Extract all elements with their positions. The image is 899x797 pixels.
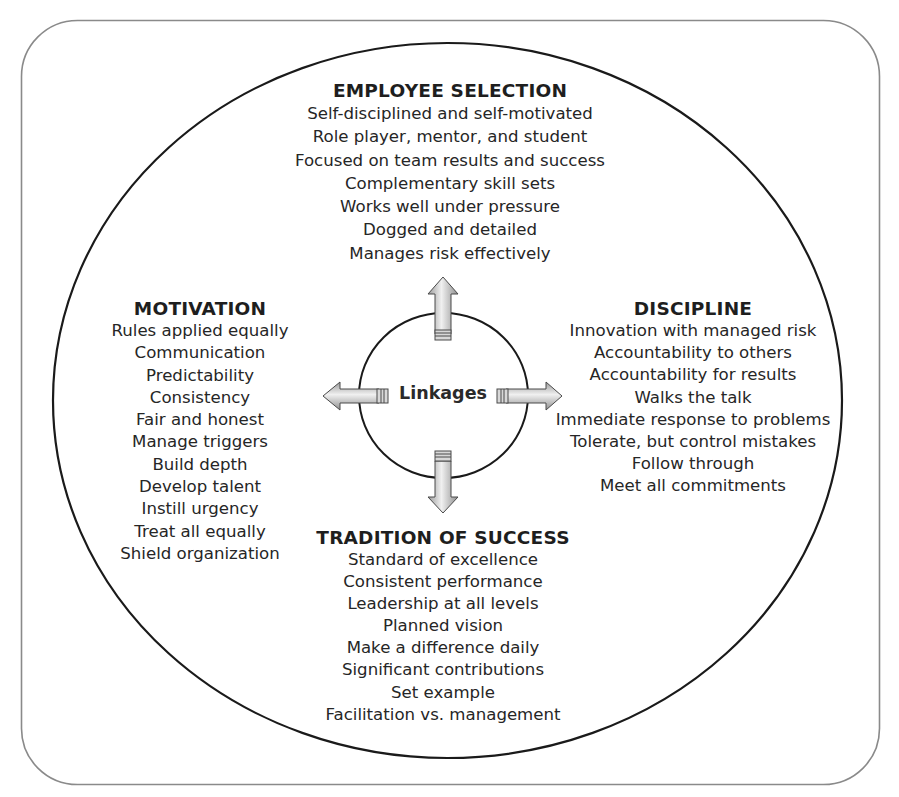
list-item: Build depth [80, 454, 320, 476]
list-item: Set example [283, 682, 603, 704]
list-item: Follow through [553, 453, 833, 475]
list-item: Self-disciplined and self-motivated [250, 102, 650, 125]
list-item: Immediate response to problems [553, 409, 833, 431]
section-title: MOTIVATION [80, 298, 320, 320]
list-item: Develop talent [80, 476, 320, 498]
list-item: Consistent performance [283, 571, 603, 593]
list-item: Accountability for results [553, 364, 833, 386]
section-tradition-of-success: TRADITION OF SUCCESS Standard of excelle… [283, 527, 603, 726]
section-title: DISCIPLINE [553, 298, 833, 320]
list-item: Significant contributions [283, 659, 603, 681]
section-title: TRADITION OF SUCCESS [283, 527, 603, 549]
list-item: Fair and honest [80, 409, 320, 431]
list-item: Communication [80, 342, 320, 364]
list-item: Standard of excellence [283, 549, 603, 571]
list-item: Dogged and detailed [250, 218, 650, 241]
list-item: Leadership at all levels [283, 593, 603, 615]
arrow-left-icon [323, 382, 388, 410]
list-item: Make a difference daily [283, 637, 603, 659]
list-item: Complementary skill sets [250, 172, 650, 195]
list-item: Planned vision [283, 615, 603, 637]
list-item: Walks the talk [553, 387, 833, 409]
list-item: Predictability [80, 365, 320, 387]
list-item: Rules applied equally [80, 320, 320, 342]
list-item: Innovation with managed risk [553, 320, 833, 342]
section-title: EMPLOYEE SELECTION [250, 80, 650, 102]
list-item: Accountability to others [553, 342, 833, 364]
linkages-diagram: Linkages EMPLOYEE SELECTION Self-discipl… [0, 0, 899, 797]
section-employee-selection: EMPLOYEE SELECTION Self-disciplined and … [250, 80, 650, 265]
list-item: Manage triggers [80, 431, 320, 453]
center-label-linkages: Linkages [393, 383, 493, 403]
list-item: Tolerate, but control mistakes [553, 431, 833, 453]
list-item: Works well under pressure [250, 195, 650, 218]
list-item: Meet all commitments [553, 475, 833, 497]
list-item: Facilitation vs. management [283, 704, 603, 726]
arrow-up-icon [428, 277, 458, 340]
list-item: Role player, mentor, and student [250, 125, 650, 148]
list-item: Consistency [80, 387, 320, 409]
arrow-down-icon [428, 451, 458, 513]
list-item: Focused on team results and success [250, 149, 650, 172]
list-item: Instill urgency [80, 498, 320, 520]
list-item: Manages risk effectively [250, 242, 650, 265]
section-motivation: MOTIVATION Rules applied equally Communi… [80, 298, 320, 565]
section-discipline: DISCIPLINE Innovation with managed risk … [553, 298, 833, 498]
